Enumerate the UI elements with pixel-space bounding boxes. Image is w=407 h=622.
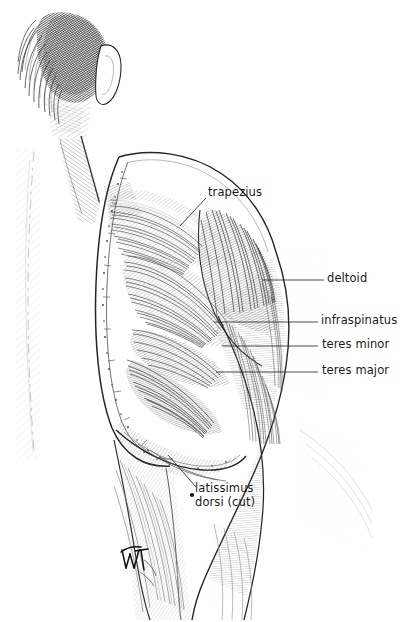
- leader-dot-latissimus: [190, 493, 194, 497]
- illustration-canvas: [0, 0, 407, 622]
- neck-shading-2: [52, 104, 84, 134]
- body-contours: [16, 150, 40, 460]
- label-latissimus-line-1: latissimus: [195, 481, 254, 495]
- label-teres-major: teres major: [322, 364, 389, 378]
- left-bg-hatch: [16, 150, 40, 460]
- leader-dots: [190, 493, 194, 497]
- label-deltoid: deltoid: [327, 272, 367, 286]
- label-teres-minor: teres minor: [322, 338, 389, 352]
- label-latissimus-line-2: dorsi (cut): [195, 495, 255, 509]
- anatomical-figure: trapezius deltoid infraspinatus teres mi…: [0, 0, 407, 622]
- label-infraspinatus: infraspinatus: [321, 314, 397, 328]
- label-trapezius: trapezius: [208, 186, 262, 200]
- label-latissimus-dorsi: latissimusdorsi (cut): [195, 482, 255, 509]
